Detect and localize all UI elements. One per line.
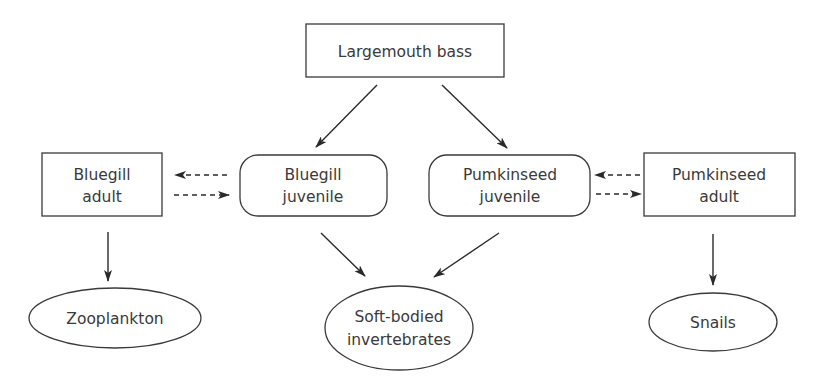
node-bluegill-adult: Bluegill adult <box>42 153 162 216</box>
edge-bluegill-juvenile-to-invertebrates <box>321 233 365 276</box>
edge-bass-to-pumkinseed-juvenile <box>442 85 507 148</box>
node-zooplankton: Zooplankton <box>29 288 201 348</box>
node-label-line1: Soft-bodied <box>354 308 443 326</box>
node-label: Snails <box>690 314 736 332</box>
node-label-line2: juvenile <box>479 188 541 206</box>
node-soft-bodied-invertebrates: Soft-bodied invertebrates <box>325 286 473 370</box>
node-label-line2: adult <box>699 188 739 206</box>
node-label-line2: adult <box>82 188 122 206</box>
node-snails: Snails <box>649 293 777 351</box>
edge-pumkinseed-juvenile-to-invertebrates <box>434 233 499 277</box>
node-label: Zooplankton <box>66 310 163 328</box>
node-label-line1: Pumkinseed <box>463 166 557 184</box>
node-label-line2: invertebrates <box>347 331 451 349</box>
edge-bass-to-bluegill-juvenile <box>316 85 377 147</box>
food-web-diagram: Largemouth bass Bluegill adult Bluegill … <box>0 0 825 387</box>
node-label-line2: juvenile <box>282 188 344 206</box>
node-largemouth-bass: Largemouth bass <box>306 24 504 77</box>
node-label-line1: Bluegill <box>73 166 130 184</box>
node-label-line1: Bluegill <box>284 166 341 184</box>
node-pumkinseed-adult: Pumkinseed adult <box>644 153 795 216</box>
node-label-line1: Pumkinseed <box>672 166 766 184</box>
node-pumkinseed-juvenile: Pumkinseed juvenile <box>429 155 590 216</box>
node-label: Largemouth bass <box>338 43 472 61</box>
node-bluegill-juvenile: Bluegill juvenile <box>240 155 387 216</box>
